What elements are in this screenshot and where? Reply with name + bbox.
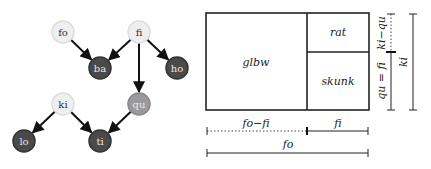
node-fo: fo xyxy=(52,21,74,43)
node-lo: lo xyxy=(13,130,35,152)
node-label: ki xyxy=(58,99,67,110)
edge-fi-to-ba xyxy=(109,39,131,59)
edge-fo-to-ba xyxy=(71,40,92,60)
node-label: lo xyxy=(19,136,28,147)
dimension-right-segments: ki−qu qu = fi xyxy=(375,14,396,110)
node-ba: ba xyxy=(89,57,111,79)
region-label-glbw: glbw xyxy=(242,56,270,69)
node-fi: fi xyxy=(128,21,150,43)
edge-qu-to-ti xyxy=(109,112,131,133)
node-ki: ki xyxy=(52,93,74,115)
dim-label-qu-equals-fi: qu = fi xyxy=(375,62,388,100)
edge-ki-to-lo xyxy=(33,112,55,133)
edge-ki-to-ti xyxy=(71,112,92,133)
dim-label-ki: ki xyxy=(397,57,410,67)
node-label: ho xyxy=(171,63,183,74)
region-label-rat: rat xyxy=(330,26,347,39)
node-label: fo xyxy=(58,27,68,38)
graph-edges xyxy=(33,39,169,132)
dim-label-fo-minus-fi: fo−fi xyxy=(241,117,269,130)
dim-label-ki-minus-qu: ki−qu xyxy=(375,16,388,50)
dim-label-fi: fi xyxy=(333,117,341,130)
node-qu: qu xyxy=(128,93,150,115)
dimension-right-total: ki xyxy=(397,14,417,110)
node-label: ti xyxy=(96,136,103,147)
graph-nodes: fofibahokiquloti xyxy=(13,21,188,152)
region-label-skunk: skunk xyxy=(321,75,354,88)
node-label: ba xyxy=(94,63,106,74)
node-label: qu xyxy=(133,99,146,110)
dimension-bottom-segments: fo−fi fi xyxy=(207,117,368,135)
dim-label-fo: fo xyxy=(282,138,294,151)
partition-diagram: glbw rat skunk fo−fi fi fo ki−qu xyxy=(206,13,417,157)
dimension-bottom-total: fo xyxy=(207,138,368,157)
node-label: fi xyxy=(136,27,143,38)
node-ho: ho xyxy=(166,57,188,79)
edge-fi-to-ho xyxy=(147,40,168,60)
node-ti: ti xyxy=(89,130,111,152)
diagram-canvas: fofibahokiquloti glbw rat skunk fo−fi fi… xyxy=(0,0,431,169)
